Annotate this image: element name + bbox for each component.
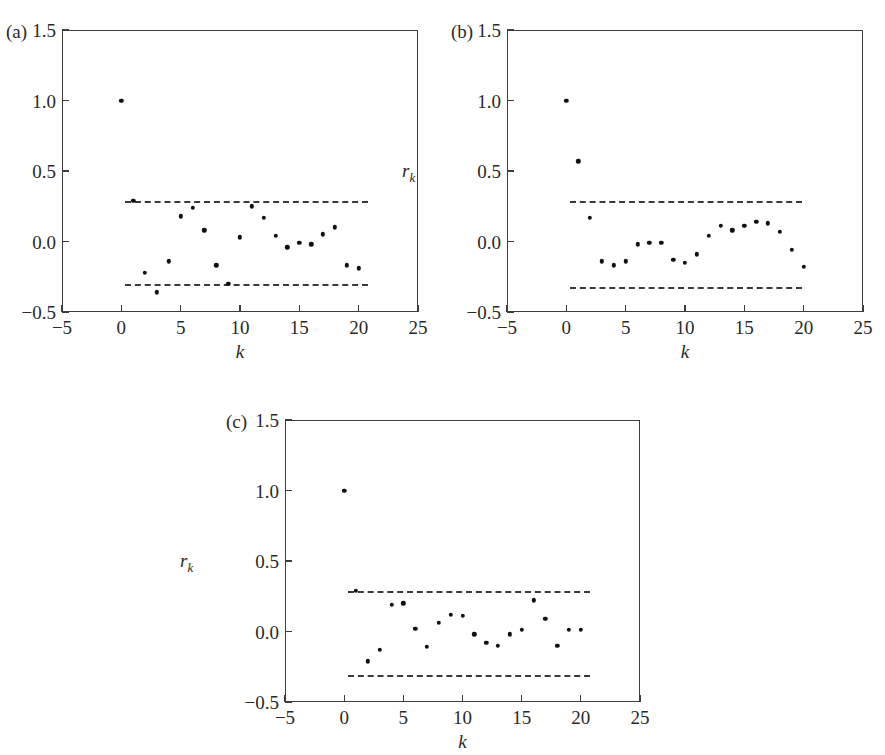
lower-bound-line: [570, 287, 803, 289]
x-tick-label: −5: [32, 318, 92, 337]
x-tick-mark: [61, 305, 62, 312]
y-tick-mark: [285, 631, 292, 632]
x-tick-label: 25: [833, 318, 885, 337]
x-tick-mark: [803, 305, 804, 312]
x-axis-title: k: [507, 342, 863, 361]
y-tick-label: 0.0: [217, 623, 279, 642]
y-tick-mark: [285, 701, 292, 702]
y-tick-label: 0.0: [439, 233, 501, 252]
y-tick-mark: [62, 100, 69, 101]
x-tick-label: 15: [269, 318, 329, 337]
x-axis-title: k: [285, 732, 640, 751]
x-tick-mark: [284, 695, 285, 702]
y-axis-title-subscript: k: [409, 170, 415, 185]
x-tick-label: 10: [210, 318, 270, 337]
y-tick-mark: [285, 490, 292, 491]
y-tick-mark: [507, 29, 514, 30]
y-tick-mark: [62, 241, 69, 242]
y-tick-label: 1.0: [217, 482, 279, 501]
y-tick-label: 1.0: [439, 92, 501, 111]
x-tick-mark: [580, 695, 581, 702]
x-tick-label: 5: [151, 318, 211, 337]
x-tick-label: 20: [551, 708, 611, 727]
y-tick-label: 0.0: [0, 233, 56, 252]
plot-frame: [285, 420, 640, 702]
upper-bound-line: [570, 201, 803, 203]
x-tick-label: −5: [477, 318, 537, 337]
upper-bound-line: [125, 201, 368, 203]
y-tick-label: 1.5: [0, 21, 56, 40]
x-tick-mark: [684, 305, 685, 312]
x-tick-label: 15: [492, 708, 552, 727]
x-tick-mark: [862, 305, 863, 312]
y-axis-title: rk: [180, 551, 193, 574]
lower-bound-line: [125, 284, 368, 286]
x-tick-label: −5: [255, 708, 315, 727]
acf-figure: (a)−0.50.00.51.01.5−50510152025krk(b)−0.…: [0, 0, 885, 755]
x-tick-mark: [506, 305, 507, 312]
plot-frame: [507, 30, 863, 312]
x-tick-mark: [417, 305, 418, 312]
x-tick-mark: [462, 695, 463, 702]
x-tick-label: 0: [314, 708, 374, 727]
x-tick-mark: [239, 305, 240, 312]
y-tick-mark: [62, 311, 69, 312]
y-tick-label: 0.5: [0, 162, 56, 181]
x-tick-label: 15: [714, 318, 774, 337]
y-tick-mark: [62, 170, 69, 171]
y-tick-mark: [62, 29, 69, 30]
x-tick-label: 0: [91, 318, 151, 337]
x-tick-label: 20: [774, 318, 834, 337]
x-tick-mark: [744, 305, 745, 312]
x-tick-label: 25: [610, 708, 670, 727]
x-tick-label: 0: [536, 318, 596, 337]
x-tick-mark: [299, 305, 300, 312]
y-tick-label: 1.5: [217, 411, 279, 430]
x-tick-mark: [121, 305, 122, 312]
x-tick-mark: [566, 305, 567, 312]
x-tick-mark: [639, 695, 640, 702]
x-tick-label: 10: [655, 318, 715, 337]
y-axis-title-subscript: k: [187, 560, 193, 575]
x-tick-mark: [403, 695, 404, 702]
y-tick-mark: [285, 419, 292, 420]
y-tick-mark: [285, 560, 292, 561]
y-tick-mark: [507, 241, 514, 242]
y-tick-mark: [507, 311, 514, 312]
x-tick-label: 5: [596, 318, 656, 337]
y-tick-mark: [507, 170, 514, 171]
x-tick-label: 5: [373, 708, 433, 727]
lower-bound-line: [348, 675, 591, 677]
x-tick-mark: [521, 695, 522, 702]
x-tick-mark: [344, 695, 345, 702]
y-tick-label: 0.5: [217, 552, 279, 571]
y-tick-mark: [507, 100, 514, 101]
x-tick-mark: [358, 305, 359, 312]
y-tick-label: 1.5: [439, 21, 501, 40]
y-tick-label: 1.0: [0, 92, 56, 111]
plot-frame: [62, 30, 418, 312]
x-tick-mark: [625, 305, 626, 312]
x-tick-label: 20: [329, 318, 389, 337]
x-tick-label: 10: [433, 708, 493, 727]
x-tick-mark: [180, 305, 181, 312]
y-tick-label: 0.5: [439, 162, 501, 181]
y-axis-title: rk: [402, 161, 415, 184]
upper-bound-line: [348, 591, 591, 593]
x-axis-title: k: [62, 342, 418, 361]
